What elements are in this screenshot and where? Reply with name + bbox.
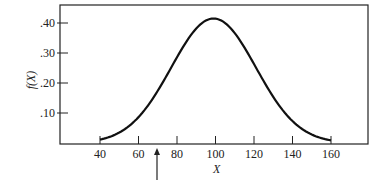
svg-text:120: 120 [245, 147, 263, 161]
svg-text:.30: .30 [40, 46, 55, 60]
svg-text:100: 100 [207, 147, 225, 161]
plot-frame [60, 5, 368, 144]
svg-text:140: 140 [284, 147, 302, 161]
y-axis-label: f(X) [24, 71, 38, 90]
normal-curve-chart: .10.20.30.40 406080100120140160 X f(X) [0, 0, 389, 187]
x-axis-label: X [212, 162, 221, 176]
arrow-head-icon [154, 148, 160, 155]
y-axis: .10.20.30.40 [40, 16, 68, 120]
svg-text:.10: .10 [40, 106, 55, 120]
x-axis: 406080100120140160 [94, 136, 340, 161]
svg-text:.40: .40 [40, 16, 55, 30]
svg-text:.20: .20 [40, 76, 55, 90]
svg-text:80: 80 [171, 147, 183, 161]
svg-text:60: 60 [133, 147, 145, 161]
svg-text:160: 160 [322, 147, 340, 161]
density-curve [100, 19, 331, 141]
svg-text:40: 40 [94, 147, 106, 161]
